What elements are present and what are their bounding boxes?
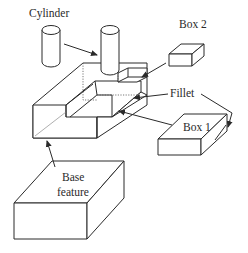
box2-label: Box 2 (179, 18, 207, 30)
feature-diagram: Cylinder (0, 0, 248, 253)
box1-label: Box 1 (183, 121, 211, 133)
cylinder-arrow (64, 44, 97, 55)
box2-separate (169, 44, 204, 66)
cylinder-separate (42, 26, 60, 68)
base-label-line1: Base (62, 171, 84, 183)
cylinder-label: Cylinder (29, 7, 69, 20)
base-label-line2: feature (57, 186, 89, 198)
fillet-label: Fillet (170, 87, 195, 99)
